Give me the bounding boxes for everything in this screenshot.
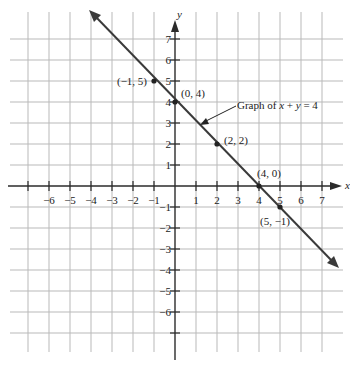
y-tick-label: 6 xyxy=(166,54,172,66)
y-axis-arrow-icon xyxy=(171,20,179,32)
x-tick-label: −5 xyxy=(64,194,76,206)
x-tick-label: −3 xyxy=(106,194,118,206)
y-tick-label: −3 xyxy=(159,243,171,255)
x-tick-label: 1 xyxy=(193,194,199,206)
x-tick-label: 6 xyxy=(298,194,304,206)
x-tick-label: −4 xyxy=(85,194,97,206)
point-marker xyxy=(277,204,282,209)
y-tick-label: −5 xyxy=(159,285,171,297)
y-tick-label: 2 xyxy=(166,138,172,150)
x-tick-label: −6 xyxy=(43,194,55,206)
axis-tick-labels: −6−5−4−3−2−112345677654321−1−2−3−4−5−6 xyxy=(43,33,325,318)
coordinate-graph: x y −6−5−4−3−2−112345677654321−1−2−3−4−5… xyxy=(0,0,350,369)
point-label: (4, 0) xyxy=(257,167,281,180)
point-label: (5, −1) xyxy=(260,215,290,228)
y-tick-label: −2 xyxy=(159,222,171,234)
x-axis-label: x xyxy=(344,179,350,191)
point-marker xyxy=(172,99,177,104)
y-tick-label: −6 xyxy=(159,306,171,318)
annotation-leader xyxy=(204,106,236,122)
x-axis-arrow-icon xyxy=(330,182,342,190)
graph-annotation: Graph of x + y = 4 xyxy=(237,99,318,111)
x-tick-label: −1 xyxy=(148,194,160,206)
y-tick-label: 3 xyxy=(166,117,172,129)
graph-line xyxy=(95,16,333,262)
y-tick-label: −4 xyxy=(159,264,171,276)
y-tick-label: 5 xyxy=(166,75,172,87)
x-tick-label: −2 xyxy=(127,194,139,206)
y-tick-label: 4 xyxy=(166,96,172,108)
point-label: (2, 2) xyxy=(224,134,248,147)
annotation-arrow-icon xyxy=(200,118,209,125)
x-tick-label: 3 xyxy=(235,194,241,206)
y-tick-label: 1 xyxy=(166,159,172,171)
point-marker xyxy=(151,78,156,83)
point-label: (−1, 5) xyxy=(117,75,147,88)
y-tick-label: 7 xyxy=(166,33,172,45)
x-tick-label: 2 xyxy=(214,194,220,206)
x-tick-label: 7 xyxy=(319,194,325,206)
point-marker xyxy=(214,141,219,146)
y-tick-label: −1 xyxy=(159,201,171,213)
plotted-points: (−1, 5)(0, 4)(2, 2)(4, 0)(5, −1) xyxy=(117,75,290,228)
x-tick-label: 4 xyxy=(256,194,262,206)
point-marker xyxy=(256,183,261,188)
y-axis-label: y xyxy=(176,8,182,20)
point-label: (0, 4) xyxy=(181,87,205,100)
